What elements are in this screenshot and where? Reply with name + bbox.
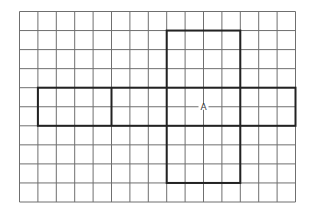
point-label-a: A [200,102,207,112]
grid-net-svg: A [0,0,331,212]
grid-lines [20,12,296,203]
grid-diagram: A [0,0,331,212]
